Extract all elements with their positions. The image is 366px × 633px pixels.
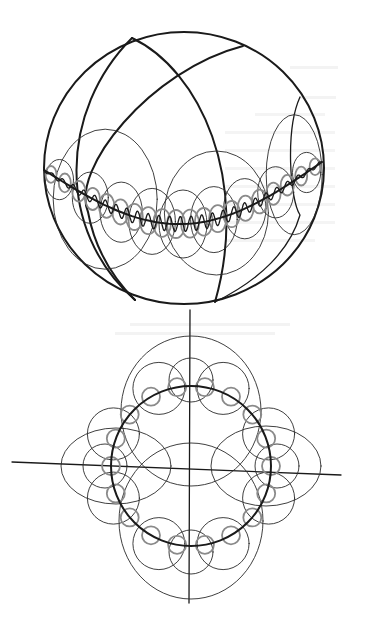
- medium-loop: [87, 408, 139, 460]
- medium-loop: [133, 362, 185, 414]
- medium-loop: [243, 472, 295, 524]
- cross-section-view: [12, 310, 341, 603]
- loop-hierarchy-diagram: [0, 0, 366, 633]
- meridian-right: [85, 46, 243, 300]
- medium-loop: [87, 472, 139, 524]
- medium-loop: [197, 362, 249, 414]
- medium-loop: [197, 518, 249, 570]
- figure-canvas: [0, 0, 366, 633]
- sphere-view: [44, 32, 324, 304]
- medium-loop: [243, 408, 295, 460]
- main-circle: [111, 386, 271, 546]
- medium-loop: [133, 518, 185, 570]
- large-loop: [53, 129, 157, 269]
- vertical-axis: [189, 310, 190, 603]
- large-loops: [61, 336, 321, 599]
- meridian-far-right: [215, 97, 300, 302]
- large-lobe: [119, 443, 263, 599]
